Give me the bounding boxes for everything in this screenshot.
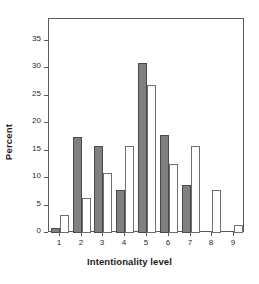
x-axis-tick: 6 (168, 232, 169, 237)
x-axis-tick: 1 (59, 232, 60, 237)
bar (169, 164, 178, 233)
x-axis-tick-label: 9 (225, 238, 241, 247)
y-axis-tick: 35 (0, 40, 48, 41)
x-axis-tick-mark (102, 232, 103, 236)
bar (125, 146, 134, 233)
x-axis-tick-label: 8 (203, 238, 219, 247)
bar (138, 63, 147, 233)
x-axis-tick-mark (81, 232, 82, 236)
x-axis-tick: 9 (233, 232, 234, 237)
y-axis-tick: 25 (0, 95, 48, 96)
x-axis-tick: 4 (124, 232, 125, 237)
x-axis-title: Intentionality level (0, 256, 259, 267)
x-axis-tick-mark (211, 232, 212, 236)
bar (103, 173, 112, 233)
bar (191, 146, 200, 233)
y-axis-tick: 15 (0, 150, 48, 151)
x-axis-tick-label: 7 (182, 238, 198, 247)
bar (82, 198, 91, 233)
x-axis-tick-label: 5 (138, 238, 154, 247)
x-axis-tick-mark (59, 232, 60, 236)
y-axis-tick-label: 25 (32, 89, 41, 98)
x-axis-tick: 5 (146, 232, 147, 237)
bar (160, 135, 169, 233)
x-axis-tick-label: 4 (116, 238, 132, 247)
bar (94, 146, 103, 233)
y-axis-tick: 5 (0, 205, 48, 206)
y-axis-tick-label: 10 (32, 171, 41, 180)
y-axis-tick: 20 (0, 122, 48, 123)
x-axis-tick: 8 (211, 232, 212, 237)
x-axis-tick-label: 1 (51, 238, 67, 247)
y-axis-tick-mark (44, 232, 48, 233)
bar (234, 225, 243, 233)
y-axis-tick: 10 (0, 177, 48, 178)
x-axis-tick: 2 (81, 232, 82, 237)
percent-by-intentionality-bar-chart: Percent 05101520253035 123456789 Intenti… (0, 0, 259, 284)
x-axis-tick-mark (190, 232, 191, 236)
x-axis-tick-label: 2 (73, 238, 89, 247)
x-axis-tick: 3 (102, 232, 103, 237)
y-axis-tick-label: 30 (32, 61, 41, 70)
x-axis-tick-mark (124, 232, 125, 236)
y-axis-tick-label: 35 (32, 34, 41, 43)
x-axis-tick-mark (233, 232, 234, 236)
y-axis-title: Percent (0, 0, 16, 284)
y-axis-tick-label: 20 (32, 116, 41, 125)
x-axis-tick-label: 3 (94, 238, 110, 247)
y-axis-tick-label: 0 (37, 226, 41, 235)
x-axis-tick-label: 6 (160, 238, 176, 247)
y-axis-tick-label: 5 (37, 199, 41, 208)
y-axis-tick: 0 (0, 232, 48, 233)
x-axis-tick-mark (146, 232, 147, 236)
y-axis-tick-label: 15 (32, 144, 41, 153)
bar (147, 85, 156, 233)
bar (212, 190, 221, 233)
bar (60, 215, 69, 233)
x-axis-tick: 7 (190, 232, 191, 237)
x-axis-tick-mark (168, 232, 169, 236)
y-axis-tick: 30 (0, 67, 48, 68)
bar (116, 190, 125, 233)
bar (182, 185, 191, 233)
plot-area (48, 18, 244, 232)
bar (73, 137, 82, 233)
